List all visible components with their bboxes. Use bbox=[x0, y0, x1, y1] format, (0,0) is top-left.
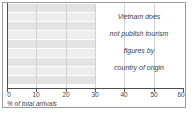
category-band bbox=[7, 40, 95, 48]
annotation-line-1: Vietnam does bbox=[96, 8, 182, 25]
category-band bbox=[7, 31, 95, 39]
x-tick-label-10: 10 bbox=[32, 91, 39, 99]
category-band bbox=[7, 4, 95, 12]
category-band bbox=[7, 13, 95, 21]
category-band bbox=[7, 49, 95, 57]
annotation-line-2: not publish tourism bbox=[96, 25, 182, 42]
x-tick-label-60: 60 bbox=[177, 91, 184, 99]
chart-annotation: Vietnam does not publish tourism figures… bbox=[96, 8, 182, 76]
gridline-20 bbox=[66, 4, 67, 88]
x-tick-label-0: 0 bbox=[7, 91, 11, 99]
category-band bbox=[7, 58, 95, 66]
x-tick-label-50: 50 bbox=[150, 91, 157, 99]
gridline-10 bbox=[36, 4, 37, 88]
y-axis-line bbox=[7, 3, 8, 89]
category-band bbox=[7, 67, 95, 75]
x-axis-title: % of total arrivals bbox=[7, 100, 57, 108]
category-band bbox=[7, 22, 95, 30]
annotation-line-3: figures by bbox=[96, 42, 182, 59]
chart-figure: 0 10 20 30 40 50 60 % of total arrivals … bbox=[0, 0, 194, 116]
category-band bbox=[7, 76, 95, 84]
annotation-line-4: country of origin bbox=[96, 59, 182, 76]
x-tick-label-40: 40 bbox=[120, 91, 127, 99]
x-tick-label-30: 30 bbox=[91, 91, 98, 99]
x-tick-label-20: 20 bbox=[62, 91, 69, 99]
